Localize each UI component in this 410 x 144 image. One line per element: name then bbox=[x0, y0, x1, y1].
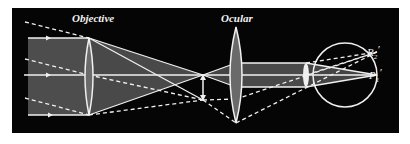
microscope-ray-diagram: Objective Ocular R2′ P1′ bbox=[0, 0, 410, 144]
ocular-label: Ocular bbox=[221, 12, 254, 24]
objective-label: Objective bbox=[72, 12, 114, 24]
eye-lens bbox=[303, 63, 309, 87]
incoming-beam bbox=[28, 38, 89, 115]
